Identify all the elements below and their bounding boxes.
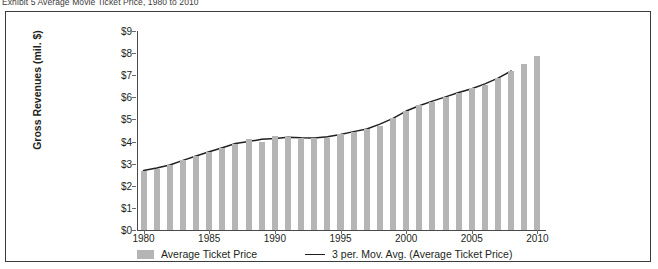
chart-frame: Gross Revenues (mil. $) $9$8$7$6$5$4$3$2… [5, 11, 651, 262]
bar [403, 111, 409, 230]
bar [232, 144, 238, 230]
bar [456, 93, 462, 230]
y-axis-tick-mark [132, 31, 136, 32]
x-axis-tick-label: 2005 [461, 233, 483, 244]
bar [180, 160, 186, 230]
y-axis-ticks: $9$8$7$6$5$4$3$2$1$0 [98, 31, 132, 230]
bar [337, 134, 343, 230]
x-axis-tick-label: 1985 [198, 233, 220, 244]
bar [141, 171, 147, 230]
bar [429, 102, 435, 230]
y-axis-tick-mark [132, 75, 136, 76]
x-axis-tick-label: 1995 [329, 233, 351, 244]
chart-legend: Average Ticket Price 3 per. Mov. Avg. (A… [137, 248, 512, 260]
x-axis-line [137, 230, 546, 231]
bar [193, 156, 199, 230]
y-axis-tick-mark [132, 119, 136, 120]
y-axis-tick-label: $0 [102, 225, 132, 236]
y-axis-tick-mark [132, 97, 136, 98]
bar [495, 78, 501, 230]
x-axis-tick-mark [341, 230, 342, 234]
x-axis-tick-label: 2000 [395, 233, 417, 244]
y-axis-tick-mark [132, 164, 136, 165]
legend-swatch-icon [137, 250, 154, 259]
x-axis-tick-label: 2010 [526, 233, 548, 244]
bar [219, 148, 225, 230]
y-axis-tick-label: $7 [102, 70, 132, 81]
bar [272, 136, 278, 230]
x-axis-tick-mark [144, 230, 145, 234]
legend-label-bars: Average Ticket Price [161, 248, 257, 260]
y-axis-tick-label: $3 [102, 158, 132, 169]
bar [154, 169, 160, 230]
y-axis-tick-mark [132, 208, 136, 209]
exhibit-title: Exhibit 5 Average Movie Ticket Price, 19… [2, 0, 199, 7]
y-axis-tick-mark [132, 186, 136, 187]
x-axis-tick-mark [275, 230, 276, 234]
legend-item-bars: Average Ticket Price [137, 248, 257, 260]
y-axis-tick-label: $8 [102, 48, 132, 59]
bar [534, 56, 540, 230]
legend-line-icon [305, 254, 325, 255]
y-axis-label: Gross Revenues (mil. $) [31, 15, 43, 165]
bar [167, 165, 173, 230]
bar [469, 88, 475, 230]
plot-area [137, 31, 544, 230]
bar [364, 129, 370, 230]
bar [298, 138, 304, 230]
y-axis-tick-label: $5 [102, 114, 132, 125]
y-axis-tick-label: $9 [102, 26, 132, 37]
y-axis-tick-label: $1 [102, 202, 132, 213]
y-axis-tick-label: $6 [102, 92, 132, 103]
bar [285, 137, 291, 230]
bar [311, 138, 317, 230]
bar [324, 138, 330, 230]
bar [206, 152, 212, 230]
bar [390, 118, 396, 230]
y-axis-tick-label: $2 [102, 180, 132, 191]
x-axis-tick-mark [406, 230, 407, 234]
y-axis-tick-label: $4 [102, 136, 132, 147]
x-axis-tick-mark [537, 230, 538, 234]
bar [259, 142, 265, 230]
bar [416, 105, 422, 230]
bar [521, 64, 527, 230]
legend-label-line: 3 per. Mov. Avg. (Average Ticket Price) [332, 248, 512, 260]
y-axis-tick-mark [132, 142, 136, 143]
bar [508, 71, 514, 230]
x-axis-tick-mark [472, 230, 473, 234]
bar [443, 97, 449, 230]
chart-page: Exhibit 5 Average Movie Ticket Price, 19… [0, 0, 658, 269]
x-axis-tick-label: 1980 [132, 233, 154, 244]
bar [482, 85, 488, 230]
x-axis-tick-mark [209, 230, 210, 234]
x-axis-tick-label: 1990 [264, 233, 286, 244]
y-axis-tick-mark [132, 230, 136, 231]
bar [246, 139, 252, 230]
y-axis-tick-mark [132, 53, 136, 54]
bar [377, 126, 383, 230]
legend-item-line: 3 per. Mov. Avg. (Average Ticket Price) [305, 248, 512, 260]
bar [351, 132, 357, 230]
